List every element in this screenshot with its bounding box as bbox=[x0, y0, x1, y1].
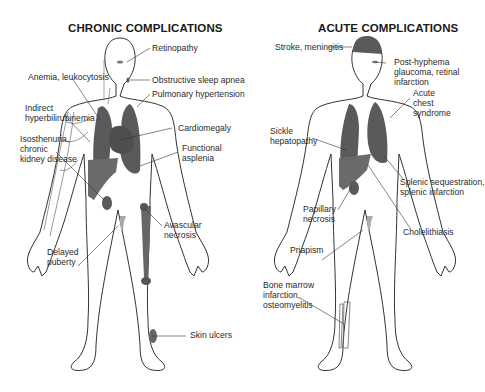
label-papillary-necrosis: Papillary necrosis bbox=[303, 204, 336, 224]
chronic-title: CHRONIC COMPLICATIONS bbox=[68, 22, 223, 34]
label-anemia-leukocytosis: Anemia, leukocytosis bbox=[28, 72, 109, 82]
label-sickle-hepatopathy: Sickle hepatopathy bbox=[270, 126, 317, 146]
label-cardiomegaly: Cardiomegaly bbox=[178, 123, 231, 133]
label-acute-chest-syndrome: Acute chest syndrome bbox=[413, 88, 451, 118]
label-post-hyphema: Post-hyphema glaucoma, retinal infarctio… bbox=[394, 57, 459, 87]
label-retinopathy: Retinopathy bbox=[152, 43, 198, 53]
label-skin-ulcers: Skin ulcers bbox=[190, 330, 232, 340]
label-indirect-hyperbilirubinemia: Indirect hyperbilirubinemia bbox=[25, 103, 95, 123]
label-avascular-necrosis: Avascular necrosis bbox=[164, 220, 202, 240]
label-isosthenuria: Isosthenuria, chronic kidney disease bbox=[20, 134, 77, 164]
label-delayed-puberty: Delayed puberty bbox=[47, 247, 79, 267]
label-functional-asplenia: Functional asplenia bbox=[182, 143, 222, 163]
label-bone-marrow-infarction: Bone marrow infarction, osteomyelitis bbox=[263, 280, 314, 310]
label-splenic-sequestration: Splenic sequestration, splenic infarctio… bbox=[400, 177, 485, 197]
chronic-body-figure bbox=[27, 38, 208, 371]
acute-title: ACUTE COMPLICATIONS bbox=[318, 22, 458, 34]
label-stroke-meningitis: Stroke, meningitis bbox=[275, 42, 343, 52]
label-obstructive-sleep-apnea: Obstructive sleep apnea bbox=[152, 75, 245, 85]
label-pulmonary-hypertension: Pulmonary hypertension bbox=[152, 89, 245, 99]
label-priapism: Priapism bbox=[290, 245, 323, 255]
label-cholelithiasis: Cholelithiasis bbox=[403, 227, 454, 237]
